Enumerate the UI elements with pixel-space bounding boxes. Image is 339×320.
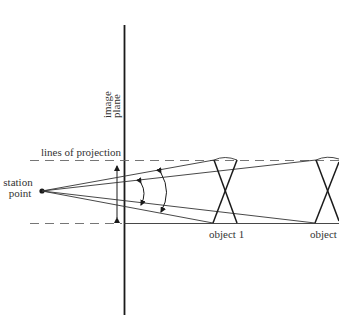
station-label-2: point [9,187,32,199]
projection-line [42,191,213,223]
lines-of-projection-label: lines of projection [41,146,122,158]
object1-shape [213,158,237,224]
angle-arc-object2 [141,183,144,205]
object2-shape [315,157,339,223]
image-plane-label-2: plane [110,94,122,118]
projection-line [42,160,214,191]
object2-label: object [310,228,337,240]
projection-diagram: image plane lines of projection station … [0,0,339,320]
angle-arc-object1 [161,173,167,212]
projection-line [42,160,316,191]
projection-line [42,191,315,223]
object1-label: object 1 [209,228,244,240]
